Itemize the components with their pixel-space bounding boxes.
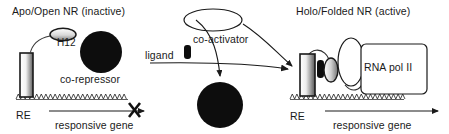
- responsive-gene-label-right: responsive gene: [333, 120, 412, 131]
- nuclear-receptor-box-right: [300, 54, 315, 96]
- panel-title-inactive: Apo/Open NR (inactive): [12, 6, 125, 17]
- corepressor-label: co-repressor: [60, 74, 120, 85]
- nuclear-receptor-diagram: Apo/Open NR (inactive) H12 co-repressor …: [0, 0, 449, 134]
- helix-12-label: H12: [57, 38, 76, 48]
- panel-title-active: Holo/Folded NR (active): [296, 6, 410, 17]
- bound-ligand-bar: [317, 60, 324, 78]
- ligand-label: ligand: [145, 50, 174, 61]
- transcription-blocked-x: [129, 103, 140, 117]
- corepressor-circle: [80, 31, 122, 73]
- coactivator-label: co-activator: [193, 34, 248, 45]
- response-element-label-left: RE: [16, 110, 31, 121]
- coactivator-docked-ellipse: [338, 38, 364, 86]
- coactivator-recruitment-arrow: [243, 24, 292, 66]
- responsive-gene-label-left: responsive gene: [55, 120, 134, 131]
- rna-polymerase-label: RNA pol II: [364, 62, 412, 73]
- helix-12-folded-ellipse: [324, 58, 338, 82]
- response-element-label-right: RE: [290, 111, 305, 122]
- corepressor-released-circle: [197, 82, 243, 128]
- receptor-linker-left: [30, 36, 50, 54]
- ligand-bar: [184, 45, 191, 59]
- nuclear-receptor-box-left: [20, 53, 33, 97]
- coactivator-ellipse: [184, 9, 242, 31]
